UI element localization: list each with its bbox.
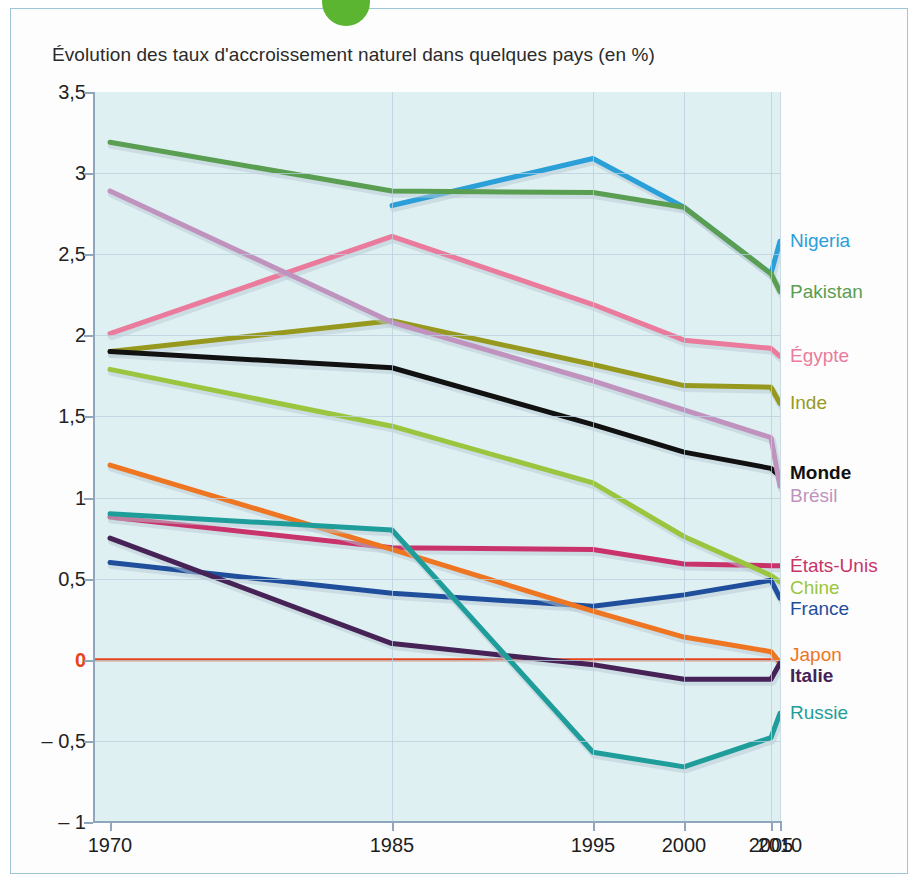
plot-area <box>95 92 780 822</box>
y-axis <box>93 92 95 822</box>
x-tick-mark <box>780 823 782 831</box>
x-tick-mark <box>771 823 773 831</box>
y-tick-mark <box>84 173 93 175</box>
gridline-horizontal <box>95 254 780 255</box>
series-line-italie[interactable] <box>110 538 780 679</box>
chart-page: Évolution des taux d'accroissement natur… <box>0 0 920 887</box>
y-tick-label: 0,5 <box>58 567 86 590</box>
y-tick-mark <box>84 92 93 94</box>
x-tick-mark <box>110 823 112 831</box>
gridline-vertical <box>392 92 393 822</box>
y-tick-mark <box>84 254 93 256</box>
y-tick-mark <box>84 579 93 581</box>
gridline-horizontal <box>95 660 780 661</box>
y-tick-label: 3,5 <box>58 81 86 104</box>
x-axis-labels: 197019851995200020052010 <box>0 823 920 873</box>
y-tick-mark <box>84 741 93 743</box>
x-tick-label: 2010 <box>758 834 803 857</box>
x-tick-mark <box>593 823 595 831</box>
y-tick-mark <box>84 335 93 337</box>
x-tick-mark <box>392 823 394 831</box>
y-tick-mark <box>84 660 93 662</box>
y-tick-label: – 0,5 <box>42 729 86 752</box>
y-tick-mark <box>84 498 93 500</box>
x-tick-label: 1970 <box>88 834 133 857</box>
x-tick-label: 2000 <box>662 834 707 857</box>
x-tick-label: 1985 <box>370 834 415 857</box>
series-shadow <box>112 145 781 294</box>
gridline-vertical <box>780 92 781 822</box>
gridline-vertical <box>593 92 594 822</box>
gridline-horizontal <box>95 173 780 174</box>
x-tick-label: 1995 <box>571 834 616 857</box>
x-tick-mark <box>684 823 686 831</box>
chart-lines <box>95 92 780 822</box>
y-axis-labels: 3,532,521,510,50– 0,5– 1 <box>0 0 86 887</box>
y-tick-label: 1,5 <box>58 405 86 428</box>
gridline-vertical <box>771 92 772 822</box>
gridline-horizontal <box>95 416 780 417</box>
gridline-horizontal <box>95 579 780 580</box>
gridline-horizontal <box>95 498 780 499</box>
y-tick-label: 2,5 <box>58 243 86 266</box>
page-title: Évolution des taux d'accroissement natur… <box>52 44 655 66</box>
gridline-vertical <box>684 92 685 822</box>
y-tick-mark <box>84 416 93 418</box>
gridline-horizontal <box>95 335 780 336</box>
gridline-horizontal <box>95 741 780 742</box>
